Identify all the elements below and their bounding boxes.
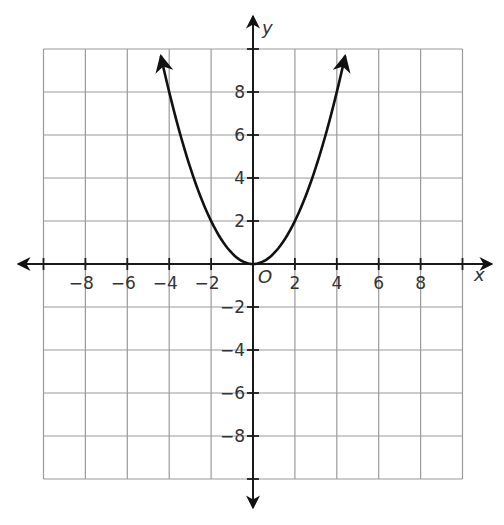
x-tick-label: −4 — [153, 273, 178, 293]
x-tick-label: −8 — [69, 273, 94, 293]
coordinate-plane: −8−6−4−224688642−2−4−6−8 x y O — [0, 0, 504, 525]
y-tick-label: 8 — [234, 82, 245, 102]
y-tick-label: −2 — [220, 297, 245, 317]
x-axis-label: x — [473, 264, 485, 285]
y-tick-label: 2 — [234, 211, 245, 231]
x-tick-label: 8 — [415, 273, 426, 293]
y-tick-label: 6 — [234, 125, 245, 145]
y-tick-label: −4 — [220, 340, 245, 360]
y-axis-label: y — [261, 17, 273, 38]
x-tick-label: 2 — [289, 273, 300, 293]
x-tick-label: 6 — [373, 273, 384, 293]
x-tick-label: −2 — [195, 273, 220, 293]
graph-svg: −8−6−4−224688642−2−4−6−8 x y O — [0, 0, 504, 525]
origin-label: O — [258, 266, 272, 287]
y-tick-label: 4 — [234, 168, 245, 188]
y-tick-label: −6 — [220, 383, 245, 403]
x-tick-label: 4 — [331, 273, 342, 293]
x-tick-label: −6 — [111, 273, 136, 293]
y-tick-label: −8 — [220, 426, 245, 446]
